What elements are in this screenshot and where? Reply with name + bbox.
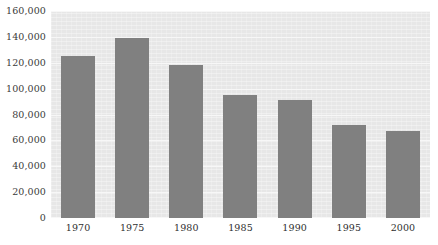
x-axis: 1970197519801985199019952000	[51, 222, 430, 238]
bar-2000	[386, 131, 420, 218]
bar-slot	[51, 11, 105, 218]
y-axis: 160,000 140,000 120,000 100,000 80,000 6…	[0, 0, 46, 245]
bar-1970	[61, 56, 95, 218]
bar-1995	[332, 125, 366, 218]
x-tick-label: 1975	[105, 222, 159, 238]
x-tick-label: 2000	[376, 222, 430, 238]
y-tick-label: 60,000	[0, 135, 46, 145]
y-tick-label: 0	[0, 213, 46, 223]
bar-1985	[223, 95, 257, 218]
x-tick-label: 1990	[268, 222, 322, 238]
x-tick-label: 1970	[51, 222, 105, 238]
x-tick-label: 1980	[159, 222, 213, 238]
bars-layer	[51, 11, 430, 218]
y-tick-label: 20,000	[0, 187, 46, 197]
y-tick-label: 120,000	[0, 58, 46, 68]
x-tick-label: 1995	[322, 222, 376, 238]
bar-1990	[278, 100, 312, 218]
bar-slot	[376, 11, 430, 218]
bar-slot	[268, 11, 322, 218]
bar-slot	[322, 11, 376, 218]
x-tick-label: 1985	[213, 222, 267, 238]
bar-chart: 160,000 140,000 120,000 100,000 80,000 6…	[0, 0, 438, 245]
bar-1975	[115, 38, 149, 218]
bar-slot	[213, 11, 267, 218]
bar-1980	[169, 65, 203, 218]
bar-slot	[159, 11, 213, 218]
plot-area	[51, 11, 430, 218]
y-tick-label: 160,000	[0, 6, 46, 16]
y-tick-label: 40,000	[0, 161, 46, 171]
y-tick-label: 100,000	[0, 84, 46, 94]
y-tick-label: 140,000	[0, 32, 46, 42]
y-tick-label: 80,000	[0, 110, 46, 120]
bar-slot	[105, 11, 159, 218]
